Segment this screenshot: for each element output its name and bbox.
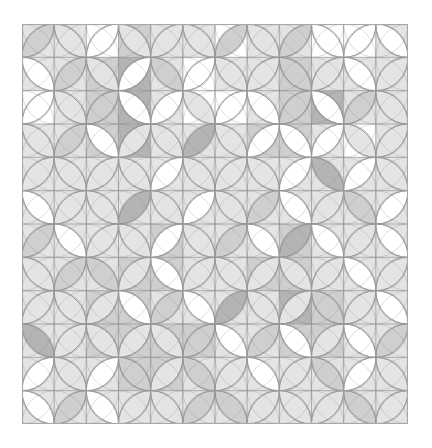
- quilt-pattern-canvas: [22, 24, 408, 424]
- quilt-diagram: [22, 24, 408, 424]
